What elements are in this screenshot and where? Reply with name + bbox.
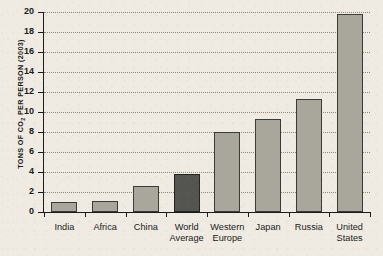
y-tick-label-6: 6	[4, 147, 34, 156]
y-tick-label-16: 16	[4, 47, 34, 56]
y-tick-label-2: 2	[4, 187, 34, 196]
category-label-africa: Africa	[85, 222, 126, 233]
y-tick-label-12: 12	[4, 87, 34, 96]
category-label-line: United	[329, 222, 370, 233]
y-tick-label-20: 20	[4, 7, 34, 16]
category-label-line: Africa	[85, 222, 126, 233]
y-tick-label-14: 14	[4, 67, 34, 76]
bar-africa	[92, 201, 118, 212]
category-label-line: Russia	[289, 222, 330, 233]
bar-japan	[255, 119, 281, 212]
category-label-china: China	[126, 222, 167, 233]
category-label-united-states: UnitedStates	[329, 222, 370, 243]
category-label-line: India	[44, 222, 85, 233]
co2-per-person-bar-chart: TONS OF CO2 PER PERSON (2003) 0246810121…	[0, 0, 383, 256]
category-label-japan: Japan	[248, 222, 289, 233]
plot-area	[44, 12, 370, 212]
bar-china	[133, 186, 159, 212]
category-label-line: World	[166, 222, 207, 233]
x-tick-8	[370, 212, 371, 217]
bar-western-europe	[214, 132, 240, 212]
gridline-14	[44, 72, 370, 73]
gridline-20	[44, 12, 370, 13]
category-label-line: Europe	[207, 233, 248, 244]
y-tick-label-10: 10	[4, 107, 34, 116]
category-label-line: Japan	[248, 222, 289, 233]
gridline-18	[44, 32, 370, 33]
bar-united-states	[337, 14, 363, 212]
category-label-india: India	[44, 222, 85, 233]
bar-world-average	[174, 174, 200, 212]
y-tick-label-0: 0	[4, 207, 34, 216]
gridline-12	[44, 92, 370, 93]
category-label-line: States	[329, 233, 370, 244]
gridline-0	[44, 212, 370, 213]
bar-russia	[296, 99, 322, 212]
category-label-line: Western	[207, 222, 248, 233]
bar-india	[51, 202, 77, 212]
category-label-russia: Russia	[289, 222, 330, 233]
y-tick-label-4: 4	[4, 167, 34, 176]
category-label-world-average: WorldAverage	[166, 222, 207, 243]
gridline-16	[44, 52, 370, 53]
category-label-line: China	[126, 222, 167, 233]
y-tick-label-8: 8	[4, 127, 34, 136]
category-label-line: Average	[166, 233, 207, 244]
y-tick-label-18: 18	[4, 27, 34, 36]
y-axis-title-subscript: 2	[20, 117, 26, 120]
category-label-western-europe: WesternEurope	[207, 222, 248, 243]
